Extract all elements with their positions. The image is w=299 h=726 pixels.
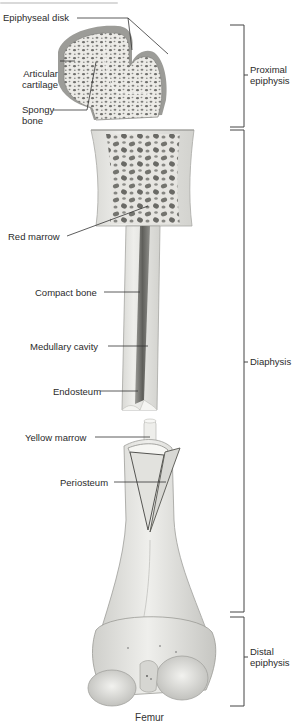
label-endosteum: Endosteum <box>53 386 101 397</box>
label-distal-epiphysis: Distal epiphysis <box>250 646 290 668</box>
label-proximal-line1: Proximal <box>250 64 290 75</box>
label-red-marrow: Red marrow <box>8 231 60 242</box>
label-spongy-line1: Spongy <box>22 104 54 115</box>
label-compact-bone: Compact bone <box>35 287 97 298</box>
label-yellow-marrow: Yellow marrow <box>25 432 86 443</box>
label-proximal-line2: epiphysis <box>250 75 290 86</box>
shaft-compact-bone <box>122 226 160 410</box>
figure-caption: Femur <box>0 712 299 723</box>
label-medullary-cavity: Medullary cavity <box>30 341 98 352</box>
label-articular-line2: cartilage <box>10 79 58 90</box>
label-spongy-line2: bone <box>22 115 54 126</box>
distal-epiphysis-shape <box>88 617 216 706</box>
bracket-diaphysis <box>230 130 244 612</box>
label-epiphyseal-disk: Epiphyseal disk <box>3 12 69 23</box>
label-distal-line1: Distal <box>250 646 290 657</box>
label-proximal-epiphysis: Proximal epiphysis <box>250 64 290 86</box>
distal-diaphysis <box>98 440 210 641</box>
label-periosteum: Periosteum <box>60 477 108 488</box>
region-brackets <box>230 25 248 706</box>
label-articular-line1: Articular <box>10 68 58 79</box>
label-spongy-bone: Spongy bone <box>22 104 54 126</box>
label-distal-line2: epiphysis <box>250 657 290 668</box>
label-diaphysis: Diaphysis <box>250 356 291 367</box>
label-articular-cartilage: Articular cartilage <box>10 68 58 90</box>
proximal-epiphysis-shape <box>58 26 167 120</box>
cut-diaphysis-block <box>91 130 194 226</box>
bracket-distal <box>230 617 244 706</box>
bracket-proximal <box>230 25 244 127</box>
